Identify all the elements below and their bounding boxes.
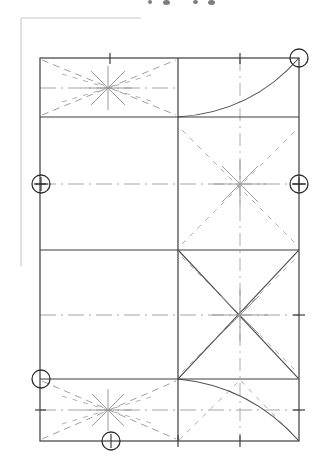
- technical-drawing-svg: [0, 0, 318, 460]
- main-outline-group: [40, 58, 299, 441]
- cropped-glyph-c: [193, 0, 198, 4]
- cropped-glyph-d: [208, 0, 215, 5]
- cropped-glyph-b: [163, 0, 170, 5]
- marker-right-middle[interactable]: [290, 175, 308, 193]
- marker-left-middle[interactable]: [32, 175, 50, 193]
- cropped-glyph-a: [148, 0, 152, 4]
- star-right-upper: [182, 130, 296, 244]
- page-border-fragment: [21, 18, 141, 266]
- upper-right-arc: [178, 58, 299, 117]
- drawing-canvas: [0, 0, 318, 460]
- star-right-lower: [182, 257, 297, 372]
- fold-group-right-quadrants: [179, 251, 298, 440]
